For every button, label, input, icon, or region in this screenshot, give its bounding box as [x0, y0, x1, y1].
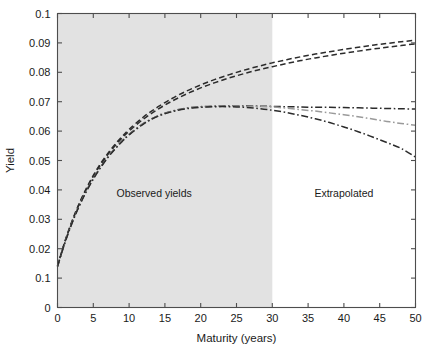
y-tick-label: 0.1 — [35, 8, 50, 20]
x-tick-label: 50 — [409, 312, 421, 324]
annotation-label: Observed yields — [117, 187, 192, 199]
annotation-label: Extrapolated — [314, 187, 373, 199]
x-tick-label: 20 — [195, 312, 207, 324]
y-tick-label: 0.07 — [29, 96, 50, 108]
y-tick-label: 0.09 — [29, 37, 50, 49]
x-tick-label: 45 — [374, 312, 386, 324]
x-tick-label: 15 — [159, 312, 171, 324]
y-tick-label: 0.04 — [29, 184, 50, 196]
x-tick-label: 30 — [266, 312, 278, 324]
shaded-region-observed — [58, 14, 273, 308]
x-tick-label: 5 — [90, 312, 96, 324]
yield-curve-figure: 05101520253035404550 00.10.020.030.040.0… — [0, 0, 429, 350]
x-tick-label: 40 — [338, 312, 350, 324]
observed-region-shading — [58, 14, 273, 308]
y-tick-label: 0.1 — [35, 272, 50, 284]
x-tick-label: 10 — [123, 312, 135, 324]
x-tick-label: 25 — [230, 312, 242, 324]
x-tick-label: 0 — [54, 312, 60, 324]
y-tick-label: 0.05 — [29, 155, 50, 167]
y-tick-label: 0.02 — [29, 243, 50, 255]
y-tick-label: 0.03 — [29, 213, 50, 225]
x-tick-label: 35 — [302, 312, 314, 324]
y-tick-label: 0 — [44, 302, 50, 314]
y-tick-label: 0.06 — [29, 125, 50, 137]
x-axis-title: Maturity (years) — [197, 332, 277, 344]
chart-canvas: 05101520253035404550 00.10.020.030.040.0… — [0, 0, 429, 350]
y-axis-title: Yield — [4, 148, 16, 173]
y-tick-label: 0.08 — [29, 66, 50, 78]
